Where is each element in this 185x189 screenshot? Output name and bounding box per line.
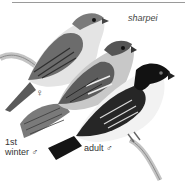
bird-illustration bbox=[0, 0, 185, 189]
adult-male-label: adult ♂ bbox=[84, 143, 113, 153]
first-winter-label-line1: 1st bbox=[5, 137, 38, 147]
branch-left bbox=[0, 55, 36, 66]
species-label: sharpei bbox=[128, 13, 158, 23]
female-label: ♀ bbox=[36, 88, 44, 98]
first-winter-label-line2: winter ♂ bbox=[5, 147, 38, 157]
first-winter-male-label: 1st winter ♂ bbox=[5, 137, 38, 157]
branch-right bbox=[130, 140, 160, 180]
